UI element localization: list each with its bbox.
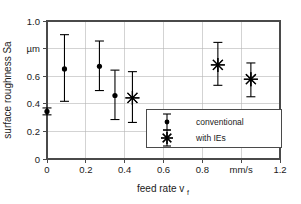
x-axis-var-subscript: f: [187, 189, 189, 196]
star-center: [166, 137, 169, 140]
y-axis-title: surface roughness Sa: [2, 41, 13, 139]
y-tick-label: 0: [35, 154, 40, 165]
data-point-dot-marker: [62, 66, 67, 71]
y-tick-label: 0.6: [27, 71, 40, 82]
x-tick-label: mm/s: [230, 164, 253, 175]
x-tick-label: 0.2: [79, 164, 92, 175]
y-tick-label: 1.0: [27, 16, 40, 27]
star-center: [249, 78, 252, 81]
x-axis-title: feed rate v f: [137, 183, 189, 196]
data-point-dot-marker: [112, 93, 117, 98]
chart-legend: conventionalwith IEs: [146, 109, 281, 147]
x-tick-labels: 00.20.40.60.8mm/s1.2: [44, 164, 286, 175]
star-center: [216, 63, 219, 66]
legend-label-0: conventional: [196, 117, 244, 127]
data-point-star-marker: [244, 72, 258, 86]
y-tick-label: 0.4: [27, 98, 40, 109]
chart-figure: 00.20.40.60.8mm/s1.2 00.20.40.6µm1.0 fee…: [0, 0, 301, 204]
star-center: [131, 96, 134, 99]
data-point-dot-marker: [97, 64, 102, 69]
x-tick-label: 0: [44, 164, 49, 175]
data-point-star-marker: [125, 91, 139, 105]
surface-roughness-scatter-chart: 00.20.40.60.8mm/s1.2 00.20.40.6µm1.0 fee…: [0, 0, 301, 204]
x-tick-label: 0.4: [118, 164, 131, 175]
y-tick-label: 0.2: [27, 126, 40, 137]
data-point-star-marker: [211, 58, 225, 72]
y-tick-label: µm: [27, 43, 40, 54]
x-tick-label: 1.2: [273, 164, 286, 175]
x-tick-label: 0.8: [196, 164, 209, 175]
data-point-star-marker: [161, 132, 173, 144]
data-point-dot-marker: [165, 120, 170, 125]
data-point-dot-marker: [44, 109, 49, 114]
legend-label-1: with IEs: [195, 133, 226, 143]
x-tick-label: 0.6: [157, 164, 170, 175]
